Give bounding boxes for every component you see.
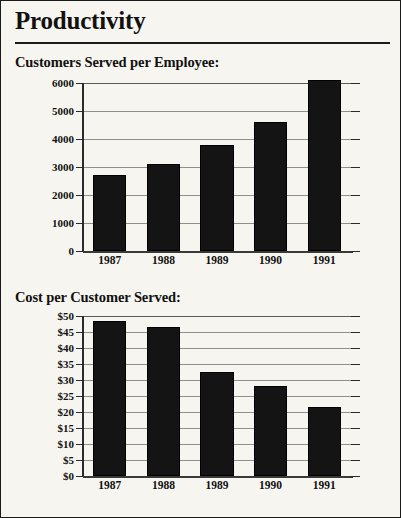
y-axis-tick-label: $25 (58, 391, 75, 402)
y-tick-mark-right (351, 223, 360, 224)
bar-1991 (308, 407, 341, 476)
x-axis-tick-label: 1989 (190, 255, 244, 267)
y-axis-tick-label: $0 (63, 471, 74, 482)
chart-cost-per-customer-served: $0$5$10$15$20$25$30$35$40$45$50 19871988… (1, 316, 401, 514)
y-tick-mark-right (351, 83, 360, 84)
y-tick-mark-right (351, 428, 360, 429)
bar-slot (297, 83, 351, 251)
y-tick-mark-right (351, 167, 360, 168)
y-tick-mark-right (351, 195, 360, 196)
chart-2-x-axis-labels: 19871988198919901991 (83, 480, 351, 492)
y-axis-tick-label: $20 (58, 407, 75, 418)
y-axis-tick-label: 4000 (52, 134, 74, 145)
bar-1991 (308, 80, 341, 251)
y-tick-mark-right (351, 251, 360, 252)
y-tick-mark-right (351, 111, 360, 112)
y-axis-tick-label: $45 (58, 327, 75, 338)
x-axis-tick-label: 1991 (297, 480, 351, 492)
y-axis-tick-label: $15 (58, 423, 75, 434)
bar-slot (244, 316, 298, 476)
chart-1-x-axis-labels: 19871988198919901991 (83, 255, 351, 267)
bar-1989 (200, 145, 233, 251)
y-axis-tick-label: 0 (69, 246, 75, 257)
x-axis-tick-label: 1990 (244, 255, 298, 267)
bar-1990 (254, 122, 287, 251)
y-axis-tick-label: $50 (58, 311, 75, 322)
y-tick-mark-right (351, 139, 360, 140)
y-axis-tick-label: $10 (58, 439, 75, 450)
chart-2-plot-area: 19871988198919901991 (83, 316, 351, 514)
chart-1-plot-area: 19871988198919901991 (83, 83, 351, 281)
y-tick-mark-right (351, 476, 360, 477)
y-tick-mark-right (351, 348, 360, 349)
bar-slot (137, 316, 191, 476)
bar-1988 (147, 327, 180, 476)
bar-slot (83, 83, 137, 251)
bar-1990 (254, 386, 287, 476)
y-axis-tick-label: 2000 (52, 190, 74, 201)
y-tick-mark-right (351, 332, 360, 333)
y-tick-mark-right (351, 412, 360, 413)
x-axis-tick-label: 1991 (297, 255, 351, 267)
chart-1-bars (83, 83, 351, 251)
x-axis-tick-label: 1987 (83, 480, 137, 492)
y-tick-mark (76, 476, 83, 477)
chart-2-caption: Cost per Customer Served: (15, 289, 181, 306)
x-axis-tick-label: 1988 (137, 255, 191, 267)
y-tick-mark-right (351, 396, 360, 397)
y-tick-mark-right (351, 316, 360, 317)
y-axis-tick-label: $35 (58, 359, 75, 370)
page-title: Productivity (15, 7, 145, 35)
chart-customers-served-per-employee: 0100020003000400050006000 19871988198919… (1, 83, 401, 281)
chart-2-bars (83, 316, 351, 476)
title-divider (15, 42, 390, 44)
y-axis-tick-label: $5 (63, 455, 74, 466)
y-axis-tick-label: $40 (58, 343, 75, 354)
chart-1-caption: Customers Served per Employee: (15, 54, 219, 71)
x-axis-tick-label: 1987 (83, 255, 137, 267)
bar-1989 (200, 372, 233, 476)
bar-1988 (147, 164, 180, 251)
y-axis-tick-label: $30 (58, 375, 75, 386)
bar-slot (190, 83, 244, 251)
y-axis-tick-label: 3000 (52, 162, 74, 173)
gridline (83, 476, 353, 478)
bar-slot (83, 316, 137, 476)
page-content: Productivity Customers Served per Employ… (1, 1, 400, 517)
y-axis-tick-label: 1000 (52, 218, 74, 229)
x-axis-tick-label: 1988 (137, 480, 191, 492)
bar-1987 (93, 321, 126, 476)
y-tick-mark-right (351, 444, 360, 445)
y-tick-mark-right (351, 380, 360, 381)
y-tick-mark (76, 251, 83, 252)
x-axis-tick-label: 1990 (244, 480, 298, 492)
x-axis-tick-label: 1989 (190, 480, 244, 492)
bar-slot (137, 83, 191, 251)
y-axis-tick-label: 6000 (52, 78, 74, 89)
chart-1-y-axis-labels: 0100020003000400050006000 (1, 83, 79, 281)
bar-1987 (93, 175, 126, 251)
y-axis-tick-label: 5000 (52, 106, 74, 117)
y-tick-mark-right (351, 364, 360, 365)
bar-slot (244, 83, 298, 251)
document-page: Productivity Customers Served per Employ… (0, 0, 401, 518)
chart-2-y-axis-labels: $0$5$10$15$20$25$30$35$40$45$50 (1, 316, 79, 514)
bar-slot (297, 316, 351, 476)
y-tick-mark-right (351, 460, 360, 461)
gridline (83, 251, 353, 253)
bar-slot (190, 316, 244, 476)
